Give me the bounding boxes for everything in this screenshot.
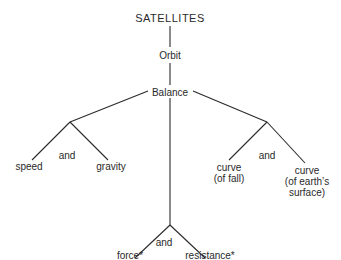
curve-fall-line2: (of fall) bbox=[214, 173, 245, 184]
curve-surface-line3: surface) bbox=[289, 187, 325, 198]
connector-lines bbox=[0, 0, 341, 260]
curve-surface-line1: curve bbox=[295, 165, 319, 176]
speed-node: speed bbox=[15, 161, 42, 172]
curve-surface-line2: (of earth’s bbox=[285, 176, 329, 187]
right-and: and bbox=[259, 150, 276, 161]
left-and: and bbox=[59, 150, 76, 161]
root-node: SATELLITES bbox=[135, 13, 205, 24]
force-node: force* bbox=[117, 250, 143, 260]
center-and: and bbox=[156, 237, 173, 248]
concept-tree-diagram: SATELLITES Orbit Balance speed and gravi… bbox=[0, 0, 341, 260]
resistance-node: resistance* bbox=[185, 250, 234, 260]
balance-node: Balance bbox=[152, 87, 188, 98]
gravity-node: gravity bbox=[96, 161, 125, 172]
curve-fall-line1: curve bbox=[217, 162, 241, 173]
orbit-node: Orbit bbox=[159, 50, 181, 61]
